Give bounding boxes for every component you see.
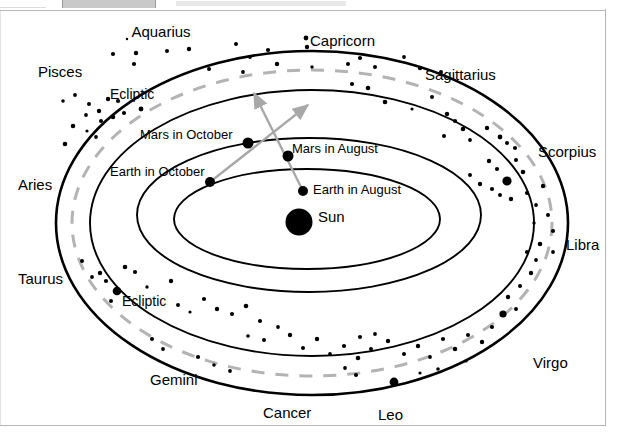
- star: [139, 107, 144, 112]
- star: [490, 187, 494, 191]
- star: [402, 352, 406, 356]
- star: [534, 203, 538, 207]
- zodiac-label-taurus: Taurus: [18, 271, 63, 286]
- star: [99, 119, 103, 123]
- retrograde-motion-diagram: AquariusCapricornSagittariusPiscesScorpi…: [0, 9, 606, 426]
- label-earth-in-august: Earth in August: [313, 183, 401, 196]
- screenshot-page: AquariusCapricornSagittariusPiscesScorpi…: [0, 0, 617, 438]
- label-mars-in-august: Mars in August: [292, 142, 378, 155]
- star: [466, 333, 470, 337]
- star: [366, 86, 371, 91]
- star: [63, 142, 68, 147]
- sun-marker: [286, 209, 313, 236]
- star: [538, 242, 543, 247]
- star: [109, 299, 113, 303]
- star: [490, 325, 494, 329]
- star: [453, 347, 458, 352]
- star: [495, 167, 499, 171]
- star: [111, 52, 115, 56]
- star: [113, 287, 122, 296]
- star: [328, 352, 332, 356]
- star: [534, 258, 538, 262]
- star: [416, 344, 420, 348]
- star: [310, 65, 313, 68]
- mars-in-october-marker: [243, 138, 254, 149]
- star: [521, 170, 526, 175]
- star: [262, 338, 266, 342]
- star: [390, 378, 399, 387]
- chrome-left-edge: [0, 0, 46, 8]
- star: [509, 197, 513, 201]
- star: [358, 56, 362, 60]
- label-earth-in-october: Earth in October: [110, 165, 205, 178]
- star: [315, 337, 319, 341]
- chrome-tab-fragment[interactable]: [62, 0, 156, 8]
- star: [84, 113, 88, 117]
- star: [305, 45, 309, 49]
- chrome-toolbar-fragment: [176, 1, 346, 6]
- star: [356, 356, 361, 361]
- star: [169, 279, 173, 283]
- star: [487, 159, 491, 163]
- star: [373, 332, 377, 336]
- star: [80, 259, 84, 263]
- star: [122, 111, 126, 115]
- zodiac-label-gemini: Gemini: [150, 372, 198, 387]
- star: [502, 176, 511, 185]
- star: [513, 146, 517, 150]
- star: [276, 325, 280, 329]
- star: [202, 297, 206, 301]
- star: [350, 82, 354, 86]
- star: [241, 70, 245, 74]
- star: [418, 371, 421, 374]
- star: [196, 355, 200, 359]
- star: [161, 347, 165, 351]
- star: [133, 270, 137, 274]
- star: [478, 182, 482, 186]
- star: [246, 334, 250, 338]
- diagram-canvas: [0, 9, 606, 426]
- star: [207, 67, 211, 71]
- zodiac-label-cancer: Cancer: [263, 405, 311, 420]
- star: [288, 333, 292, 337]
- star: [468, 173, 472, 177]
- star: [61, 99, 65, 103]
- star: [94, 135, 98, 139]
- star: [73, 93, 77, 97]
- zodiac-label-libra: Libra: [566, 237, 599, 252]
- star: [383, 100, 388, 105]
- zodiac-label-aquarius: Aquarius: [131, 24, 190, 39]
- star: [498, 193, 502, 197]
- zodiac-label-capricorn: Capricorn: [310, 33, 375, 48]
- star: [518, 284, 522, 288]
- star: [468, 138, 472, 142]
- star: [134, 51, 138, 55]
- star: [430, 95, 434, 99]
- star: [150, 337, 154, 341]
- star: [343, 366, 347, 370]
- star: [165, 49, 169, 53]
- star: [498, 135, 503, 140]
- star: [248, 55, 252, 59]
- earth-in-august-marker: [298, 186, 308, 196]
- star: [461, 127, 466, 132]
- star: [354, 373, 358, 377]
- zodiac-label-scorpius: Scorpius: [538, 144, 596, 159]
- star: [230, 312, 234, 316]
- star: [551, 250, 555, 254]
- star: [436, 367, 440, 371]
- zodiac-label-virgo: Virgo: [533, 355, 568, 370]
- star: [506, 295, 510, 299]
- star: [126, 38, 128, 40]
- star: [228, 369, 232, 373]
- star: [71, 124, 76, 129]
- label-sun: Sun: [318, 209, 345, 224]
- star: [98, 271, 102, 275]
- star: [212, 363, 216, 367]
- star: [111, 115, 116, 120]
- star: [480, 340, 484, 344]
- star: [145, 285, 148, 288]
- star: [373, 65, 377, 69]
- star: [428, 355, 432, 359]
- star: [529, 271, 533, 275]
